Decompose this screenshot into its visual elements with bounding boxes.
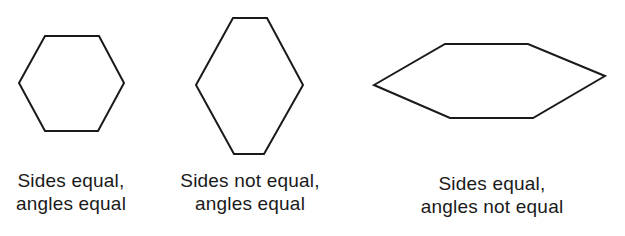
regular-hexagon-shape	[19, 36, 124, 131]
caption-line: Sides equal,	[392, 172, 592, 195]
caption-line: Sides not equal,	[150, 169, 350, 192]
caption-line: Sides equal,	[0, 169, 171, 192]
caption-line: angles equal	[0, 192, 171, 215]
equilateral-hexagon-shape	[374, 44, 605, 118]
caption-line: angles not equal	[392, 195, 592, 218]
equiangular-hexagon-shape	[196, 18, 303, 154]
equiangular-hexagon-caption: Sides not equal, angles equal	[150, 169, 350, 215]
regular-hexagon-caption: Sides equal, angles equal	[0, 169, 171, 215]
equilateral-hexagon-caption: Sides equal, angles not equal	[392, 172, 592, 218]
caption-line: angles equal	[150, 192, 350, 215]
